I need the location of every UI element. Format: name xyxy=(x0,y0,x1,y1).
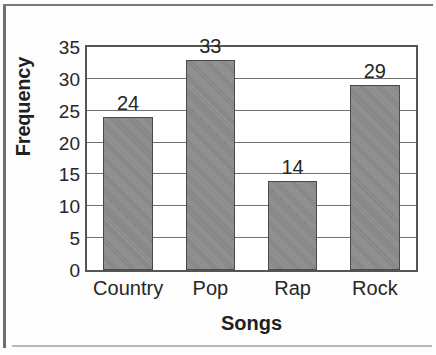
x-axis-tick-labels: CountryPopRapRock xyxy=(85,277,418,305)
bar xyxy=(350,85,399,270)
y-axis-tick-labels: 05101520253035 xyxy=(44,45,80,272)
bar xyxy=(268,181,317,270)
bar xyxy=(186,60,235,270)
y-axis-tick-label: 15 xyxy=(46,165,80,184)
y-axis-tick-label: 10 xyxy=(46,197,80,216)
bar-value-label: 33 xyxy=(180,36,240,56)
y-axis-tick-label: 35 xyxy=(46,38,80,57)
y-axis-tick-label: 30 xyxy=(46,70,80,89)
bar-value-label: 24 xyxy=(98,93,158,113)
page-frame-top-border xyxy=(3,4,433,6)
page-frame-bottom-rule xyxy=(12,345,432,347)
x-axis-tick-label: Rock xyxy=(320,277,430,299)
page-frame-left-border xyxy=(3,4,6,348)
y-axis-title: Frequency xyxy=(12,42,35,172)
bar-value-label: 14 xyxy=(263,157,323,177)
bar-chart-figure: Frequency 05101520253035 CountryPopRapRo… xyxy=(0,0,436,355)
y-axis-tick-label: 25 xyxy=(46,102,80,121)
y-axis-tick-label: 20 xyxy=(46,134,80,153)
y-axis-tick-label: 5 xyxy=(46,229,80,248)
x-axis-title: Songs xyxy=(85,312,418,335)
bar-value-label: 29 xyxy=(345,61,405,81)
bar xyxy=(103,117,152,270)
